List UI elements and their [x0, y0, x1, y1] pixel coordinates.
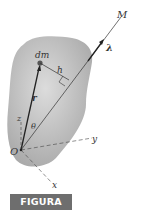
label-theta: θ [31, 122, 36, 131]
label-x: x [52, 180, 57, 190]
label-lambda: λ [105, 42, 113, 53]
label-h: h [57, 65, 63, 75]
figure-caption-badge: FIGURA B/7 [10, 194, 72, 210]
label-O: O [10, 146, 18, 157]
body-shape [7, 36, 92, 166]
label-y: y [91, 134, 98, 144]
label-M: M [116, 9, 128, 20]
label-z: z [16, 114, 22, 123]
rigid-body-diagram: M λ dm h r θ z y x O [0, 0, 141, 212]
origin-point [20, 149, 23, 152]
label-dm: dm [35, 50, 49, 60]
